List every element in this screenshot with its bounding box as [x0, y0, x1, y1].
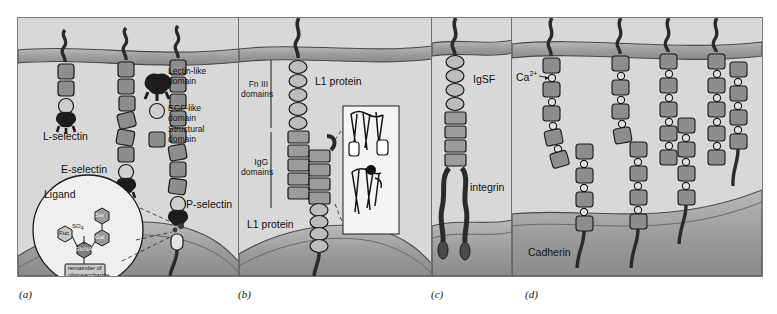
panel-c: IgSF integrin	[432, 18, 512, 276]
panel-c-graphics	[432, 18, 512, 276]
panel-label-d: (d)	[525, 288, 538, 300]
legend-label-lectin: Lectin-like domain	[168, 67, 206, 87]
sugar-label-sia: Sia	[95, 212, 104, 219]
bracket-label-igg: IgG domains	[241, 158, 268, 178]
figure-root: L-selectin E-selectin P-selectin Lectin-…	[0, 0, 777, 314]
inset-footer-label: remainder of oligosaccharide	[68, 265, 104, 276]
label-l1-protein-top: L1 protein	[315, 75, 362, 87]
label-l1-protein-bottom: L1 protein	[247, 218, 294, 230]
label-igsf: IgSF	[473, 73, 495, 85]
sugar-label-gal: Gal	[95, 234, 104, 241]
bracket-label-fn3: Fn III domains	[241, 80, 268, 100]
label-cadherin: Cadherin	[528, 246, 571, 258]
panel-a: L-selectin E-selectin P-selectin Lectin-…	[18, 18, 239, 276]
panel-label-a: (a)	[19, 288, 32, 300]
panel-d-graphics	[512, 18, 762, 276]
label-integrin: integrin	[470, 181, 504, 193]
panel-b-graphics	[239, 18, 432, 276]
panel-d: Ca2+ Cadherin	[512, 18, 762, 276]
figure-frame: L-selectin E-selectin P-selectin Lectin-…	[17, 17, 763, 277]
sugar-label-fuc: Fuc	[59, 230, 69, 237]
legend-label-egf: EGF-like domain	[168, 104, 201, 124]
sulfate-label: SO4	[72, 223, 83, 232]
inset-title-ligand: Ligand	[44, 188, 76, 200]
label-p-selectin: P-selectin	[186, 198, 232, 210]
panel-label-c: (c)	[431, 288, 443, 300]
sugar-label-glcnac: GlcNAc	[75, 246, 95, 253]
label-calcium-ion: Ca2+	[516, 70, 537, 83]
panel-b: Fn III domains IgG domains L1 protein L1…	[239, 18, 432, 276]
legend-label-structural: Structural domain	[168, 125, 204, 145]
label-l-selectin: L-selectin	[43, 130, 88, 142]
panel-label-b: (b)	[238, 288, 251, 300]
label-e-selectin: E-selectin	[61, 163, 107, 175]
